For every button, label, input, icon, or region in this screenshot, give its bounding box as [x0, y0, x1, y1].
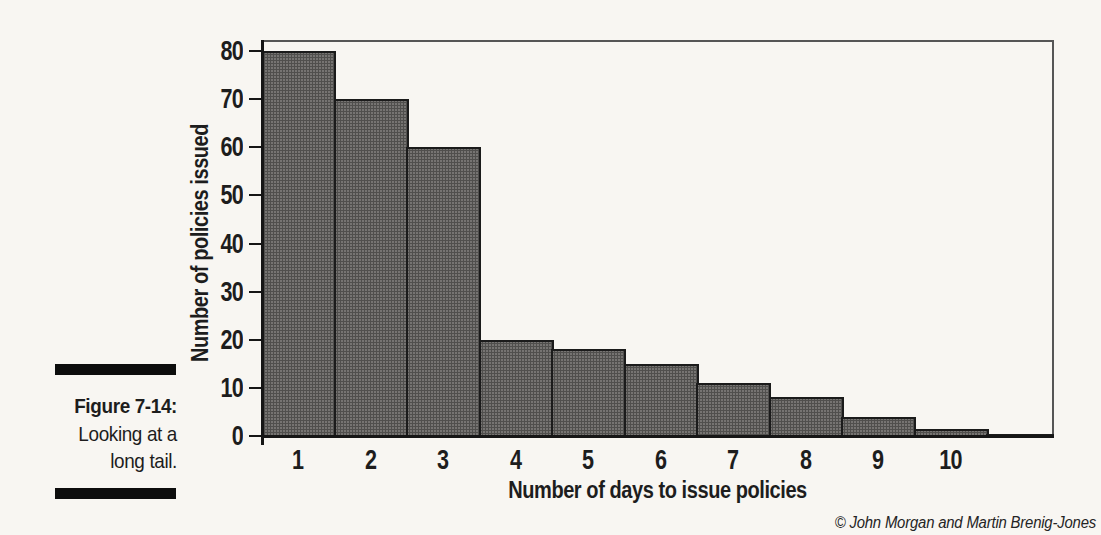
y-tick-mark-50: [249, 194, 261, 196]
x-tick-label-7: 7: [703, 447, 761, 474]
y-tick-mark-80: [249, 50, 261, 52]
bar-day-5: [551, 349, 626, 438]
origin-tick-mark: [261, 436, 264, 445]
figure-caption: Figure 7-14: Looking at a long tail.: [34, 392, 177, 475]
caption-rule-bottom: [55, 488, 176, 499]
figure-caption-line2: long tail.: [110, 449, 177, 472]
figure-caption-label: Figure 7-14:: [74, 394, 177, 417]
y-tick-label-20: 20: [205, 327, 243, 354]
plot-frame-right: [1052, 40, 1054, 438]
y-tick-label-70: 70: [205, 86, 243, 113]
y-tick-mark-40: [249, 243, 261, 245]
y-axis-line: [261, 40, 264, 438]
y-tick-label-60: 60: [205, 134, 243, 161]
x-tick-label-4: 4: [486, 447, 544, 474]
caption-rule-top: [55, 364, 176, 375]
x-tick-label-1: 1: [268, 447, 326, 474]
bar-day-3: [406, 147, 481, 438]
copyright-credit: © John Morgan and Martin Brenig-Jones: [77, 514, 1096, 532]
y-tick-label-50: 50: [205, 182, 243, 209]
y-tick-label-30: 30: [205, 279, 243, 306]
y-tick-label-0: 0: [205, 423, 243, 450]
x-tick-label-2: 2: [341, 447, 399, 474]
y-tick-mark-20: [249, 339, 261, 341]
bar-day-8: [769, 397, 844, 438]
y-tick-mark-30: [249, 291, 261, 293]
bar-day-7: [696, 383, 771, 438]
plot-frame-top: [261, 40, 1054, 42]
x-tick-label-6: 6: [631, 447, 689, 474]
x-tick-label-9: 9: [848, 447, 906, 474]
y-tick-label-80: 80: [205, 38, 243, 65]
y-tick-mark-70: [249, 98, 261, 100]
bar-day-1: [261, 51, 336, 438]
y-tick-mark-60: [249, 146, 261, 148]
y-tick-label-40: 40: [205, 231, 243, 258]
x-axis-title: Number of days to issue policies: [313, 477, 1003, 504]
y-tick-mark-10: [249, 387, 261, 389]
bar-day-6: [624, 364, 699, 438]
bar-day-4: [479, 340, 554, 438]
x-tick-label-3: 3: [413, 447, 471, 474]
x-tick-label-5: 5: [558, 447, 616, 474]
book-page: Figure 7-14: Looking at a long tail. Num…: [0, 0, 1101, 535]
y-tick-mark-0: [249, 435, 261, 437]
x-tick-label-10: 10: [921, 447, 979, 474]
x-tick-label-8: 8: [776, 447, 834, 474]
x-axis-line: [261, 435, 1054, 438]
figure-caption-line1: Looking at a: [78, 422, 177, 445]
bar-day-2: [334, 99, 409, 438]
y-tick-label-10: 10: [205, 375, 243, 402]
bar-chart-plot-area: 0102030405060708012345678910: [261, 40, 1054, 438]
